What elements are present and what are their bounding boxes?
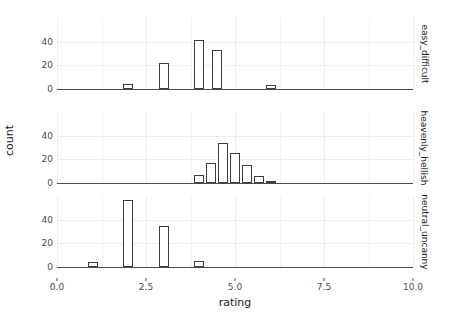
facet-panel [57,112,413,183]
x-tick-label: 10.0 [403,283,423,292]
histogram-bar [194,175,204,183]
y-tick-label: 0 [21,263,53,272]
y-axis-title: count [2,0,18,280]
grid-line-horizontal [57,136,413,137]
grid-line-vertical-minor [102,18,103,89]
x-tick-label: 0.0 [50,283,64,292]
grid-line-vertical [57,112,58,183]
y-axis-title-text: count [4,124,17,155]
histogram-bar [242,165,252,183]
y-axis-ticks: 02040 [18,196,53,267]
x-tick-mark [235,278,236,281]
grid-line-vertical [235,18,236,89]
grid-line-horizontal [57,220,413,221]
histogram-bar [194,40,204,89]
histogram-bar [206,163,216,183]
x-axis-ticks: 0.02.55.07.510.0 [57,281,413,295]
grid-line-vertical [146,196,147,267]
panel-axis-line [57,183,413,184]
facet-strip-text: neutral_uncanny [420,194,430,269]
facet-strip-text: heavenly_hellish [420,110,430,185]
y-tick-label: 40 [21,37,53,46]
facet-strip-text: easy_difficult [420,24,430,83]
panel-axis-line [57,89,413,90]
grid-line-vertical-minor [102,196,103,267]
grid-line-vertical-minor [102,112,103,183]
grid-line-vertical [235,196,236,267]
y-axis-ticks: 02040 [18,112,53,183]
grid-line-vertical [324,112,325,183]
grid-line-vertical [57,18,58,89]
grid-line-vertical-minor [369,196,370,267]
x-tick-label: 5.0 [228,283,242,292]
grid-line-vertical-minor [191,196,192,267]
grid-line-vertical [146,18,147,89]
grid-line-vertical-minor [369,112,370,183]
y-tick-label: 20 [21,155,53,164]
y-tick-label: 20 [21,239,53,248]
histogram-bar [159,226,169,267]
grid-line-vertical-minor [191,112,192,183]
x-axis-title: rating [57,296,413,309]
histogram-bar [230,153,240,183]
facet-panel [57,196,413,267]
histogram-bar [254,176,264,183]
histogram-bar [218,143,228,183]
grid-line-vertical [324,196,325,267]
y-tick-label: 0 [21,85,53,94]
x-axis-title-text: rating [219,296,252,309]
panel-plot-area [57,196,413,267]
y-tick-label: 40 [21,131,53,140]
grid-line-horizontal [57,42,413,43]
grid-line-vertical [413,112,414,183]
facet-panel [57,18,413,89]
y-tick-label: 40 [21,215,53,224]
x-tick-label: 2.5 [139,283,153,292]
panel-axis-line [57,267,413,268]
grid-line-horizontal [57,243,413,244]
y-axis-ticks: 02040 [18,18,53,89]
x-tick-mark [146,278,147,281]
grid-line-vertical-minor [280,196,281,267]
facet-strip-label: neutral_uncanny [416,196,433,267]
grid-line-vertical-minor [280,112,281,183]
facet-strip-label: easy_difficult [416,18,433,89]
grid-line-vertical [146,112,147,183]
histogram-bar [212,50,222,89]
grid-line-vertical-minor [280,18,281,89]
grid-line-vertical [57,196,58,267]
grid-line-vertical [413,196,414,267]
grid-line-vertical [413,18,414,89]
histogram-bar [123,200,133,267]
grid-line-horizontal [57,65,413,66]
facet-strip-label: heavenly_hellish [416,112,433,183]
histogram-bar [159,63,169,89]
panel-plot-area [57,112,413,183]
y-tick-label: 0 [21,179,53,188]
x-tick-mark [57,278,58,281]
x-tick-mark [413,278,414,281]
y-tick-label: 20 [21,61,53,70]
x-tick-label: 7.5 [317,283,331,292]
grid-line-vertical [324,18,325,89]
x-tick-mark [324,278,325,281]
grid-line-vertical-minor [191,18,192,89]
chart-figure: count 0.02.55.07.510.0 rating 02040easy_… [0,0,464,318]
panel-plot-area [57,18,413,89]
grid-line-vertical-minor [369,18,370,89]
